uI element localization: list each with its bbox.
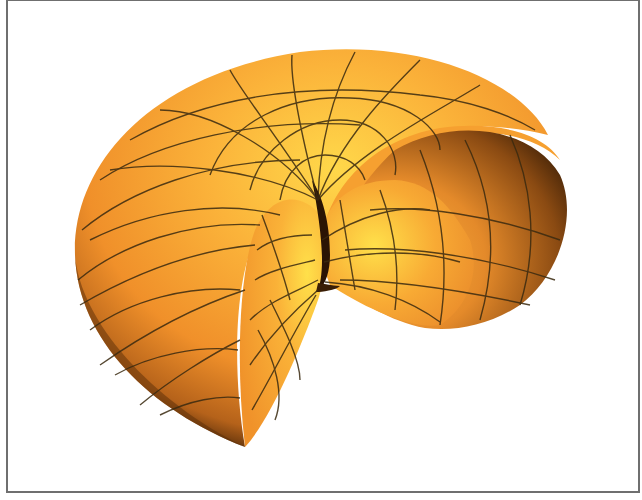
- horn-torus-render: [0, 0, 642, 500]
